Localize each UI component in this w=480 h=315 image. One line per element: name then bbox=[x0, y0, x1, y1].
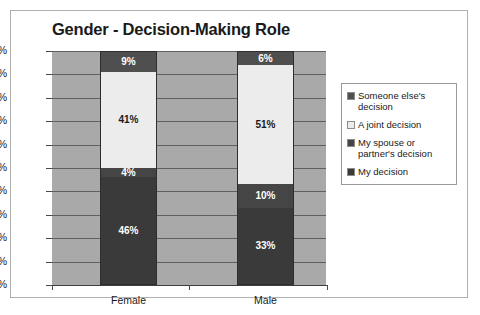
bar-segment[interactable]: 9% bbox=[100, 51, 157, 72]
y-axis-tick-label: 70% bbox=[0, 114, 7, 126]
legend-item[interactable]: Someone else's decision bbox=[347, 90, 451, 112]
legend-item[interactable]: My decision bbox=[347, 166, 451, 177]
y-axis-tick-label: 60% bbox=[0, 138, 7, 150]
bar-segment-value-label: 33% bbox=[255, 241, 275, 251]
x-axis-category-label: Female bbox=[74, 294, 184, 306]
legend-item-label: My decision bbox=[358, 166, 408, 177]
legend-item-label: Someone else's decision bbox=[358, 90, 451, 112]
y-axis-tick-label-wrap: 100% bbox=[11, 51, 52, 52]
bar-segment[interactable]: 51% bbox=[237, 65, 294, 184]
stacked-bar[interactable]: 9%41%4%46% bbox=[100, 51, 157, 285]
stacked-bar[interactable]: 6%51%10%33% bbox=[237, 51, 294, 285]
bar-segment-value-label: 51% bbox=[255, 120, 275, 130]
legend-color-swatch bbox=[347, 168, 355, 176]
legend-item-label: My spouse or partner's decision bbox=[358, 137, 451, 159]
chart-frame: Gender - Decision-Making Role 0%10%20%30… bbox=[10, 10, 468, 298]
y-axis-tick-label-wrap: 90% bbox=[11, 74, 52, 75]
bar-segment[interactable]: 6% bbox=[237, 51, 294, 65]
plot-area: 9%41%4%46%6%51%10%33% bbox=[52, 51, 326, 285]
bar-segment-value-label: 4% bbox=[121, 168, 135, 178]
y-axis-tick-label-wrap: 70% bbox=[11, 121, 52, 122]
bar-segment-value-label: 46% bbox=[118, 226, 138, 236]
legend-color-swatch bbox=[347, 121, 355, 129]
bar-segment[interactable]: 46% bbox=[100, 177, 157, 285]
bar-segment-value-label: 6% bbox=[258, 54, 272, 64]
bar-segment[interactable]: 41% bbox=[100, 72, 157, 168]
legend-color-swatch bbox=[347, 139, 355, 147]
y-axis-tick-label: 40% bbox=[0, 184, 7, 196]
y-axis-tick-label: 90% bbox=[0, 67, 7, 79]
y-axis-tick-label-wrap: 40% bbox=[11, 191, 52, 192]
y-axis-tick-label-wrap: 60% bbox=[11, 145, 52, 146]
y-axis-tick-label-wrap: 20% bbox=[11, 238, 52, 239]
x-axis-tick bbox=[327, 285, 328, 290]
y-axis-tick-label: 50% bbox=[0, 161, 7, 173]
bar-segment[interactable]: 4% bbox=[100, 168, 157, 177]
legend-item-label: A joint decision bbox=[358, 119, 421, 130]
bar-segment[interactable]: 10% bbox=[237, 184, 294, 207]
y-axis-tick-label-wrap: 50% bbox=[11, 168, 52, 169]
y-axis-tick-label-wrap: 10% bbox=[11, 262, 52, 263]
y-axis-tick-label-wrap: 80% bbox=[11, 98, 52, 99]
x-axis-tick bbox=[189, 285, 190, 290]
x-axis-category-label: Male bbox=[211, 294, 321, 306]
y-axis-tick-label: 80% bbox=[0, 91, 7, 103]
legend-item[interactable]: A joint decision bbox=[347, 119, 451, 130]
y-axis-tick-label-wrap: 30% bbox=[11, 215, 52, 216]
bar-segment[interactable]: 33% bbox=[237, 208, 294, 285]
y-axis-tick-label: 20% bbox=[0, 231, 7, 243]
y-axis-tick-label: 30% bbox=[0, 208, 7, 220]
y-axis-tick-label: 100% bbox=[0, 44, 7, 56]
legend-color-swatch bbox=[347, 92, 355, 100]
chart-legend: Someone else's decisionA joint decisionM… bbox=[341, 83, 457, 185]
bar-segment-value-label: 10% bbox=[255, 191, 275, 201]
legend-item[interactable]: My spouse or partner's decision bbox=[347, 137, 451, 159]
bar-segment-value-label: 41% bbox=[118, 115, 138, 125]
y-axis-tick-label: 0% bbox=[0, 278, 7, 290]
y-axis-tick-label-wrap: 0% bbox=[11, 285, 52, 286]
x-axis-tick bbox=[52, 285, 53, 290]
y-axis-tick-label: 10% bbox=[0, 255, 7, 267]
chart-title: Gender - Decision-Making Role bbox=[11, 20, 331, 39]
bar-segment-value-label: 9% bbox=[121, 57, 135, 67]
